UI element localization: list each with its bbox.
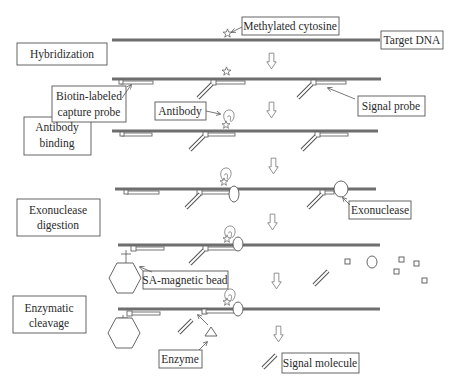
target-dna-callout: Target DNA (381, 31, 443, 49)
svg-text:Methylated cytosine: Methylated cytosine (243, 20, 337, 33)
svg-text:Exonuclease: Exonuclease (29, 204, 87, 216)
signal-molecule-output: Signal molecule (263, 353, 359, 373)
svg-text:binding: binding (39, 137, 74, 150)
down-arrow-icon (267, 53, 276, 69)
antibody-bound-dna-row3 (112, 110, 378, 150)
down-arrow-icon (269, 158, 278, 174)
svg-text:Enzyme: Enzyme (161, 353, 199, 366)
exonuclease-dna-row4 (115, 168, 376, 208)
svg-text:SA-magnetic bead: SA-magnetic bead (142, 274, 228, 287)
svg-text:Hybridization: Hybridization (30, 48, 94, 61)
svg-text:digestion: digestion (37, 219, 79, 232)
step-hybridization-label: Hybridization (17, 43, 107, 65)
magnetic-bead-hexagon-icon (109, 263, 141, 293)
svg-text:cleavage: cleavage (29, 317, 69, 330)
down-arrow-icon (274, 326, 283, 342)
antibody-icon (224, 110, 234, 123)
svg-text:Enzymatic: Enzymatic (24, 302, 73, 315)
svg-text:Target DNA: Target DNA (384, 34, 441, 47)
enzyme-triangle-icon (205, 327, 217, 336)
step-antibody-binding-label: Antibody binding (24, 117, 91, 155)
down-arrow-icon (267, 102, 276, 118)
cleaved-dna-row6 (108, 289, 380, 348)
exonuclease-icon (334, 181, 348, 197)
released-fragments (314, 256, 427, 285)
svg-text:capture probe: capture probe (58, 106, 121, 119)
methylated-cytosine-star-icon (223, 29, 232, 37)
diagram-canvas: Hybridization Antibody binding Exonuclea… (0, 0, 454, 385)
sa-magnetic-bead-callout: SA-magnetic bead (140, 267, 228, 289)
capture-probe-callout: Biotin-labeled capture probe (52, 85, 131, 122)
signal-probe-callout: Signal probe (328, 88, 425, 116)
svg-text:Signal molecule: Signal molecule (283, 357, 357, 370)
svg-text:Biotin-labeled: Biotin-labeled (56, 90, 122, 102)
exonuclease-callout: Exonuclease (343, 198, 411, 219)
magnetic-bead-hexagon-icon (108, 318, 140, 348)
svg-text:Signal probe: Signal probe (362, 100, 420, 113)
svg-text:Exonuclease: Exonuclease (351, 204, 409, 216)
methylated-cytosine-callout: Methylated cytosine (232, 17, 339, 35)
svg-text:Antibody: Antibody (35, 121, 79, 134)
enzyme-callout: Enzyme (159, 342, 207, 368)
antibody-callout: Antibody (155, 102, 220, 120)
step-enzymatic-cleavage-label: Enzymatic cleavage (13, 296, 86, 333)
down-arrow-icon (272, 273, 281, 289)
exonuclease-icon (229, 186, 239, 202)
svg-text:Antibody: Antibody (158, 105, 202, 118)
step-exonuclease-digestion-label: Exonuclease digestion (17, 199, 100, 236)
down-arrow-icon (268, 214, 277, 230)
